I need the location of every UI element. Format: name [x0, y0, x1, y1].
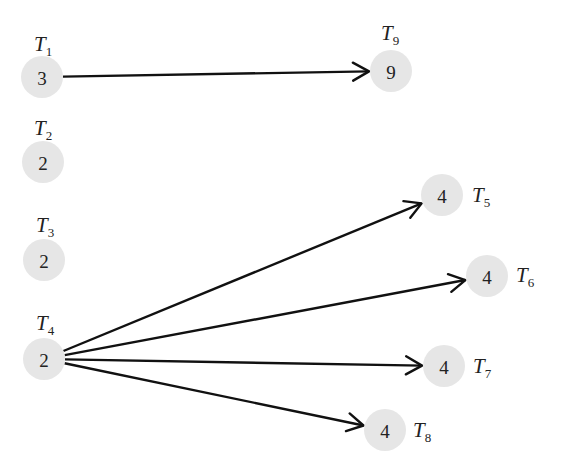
- node-label-subscript: 3: [48, 225, 55, 240]
- node-label-subscript: 8: [425, 430, 432, 445]
- edges-layer: [63, 63, 465, 431]
- node-label-subscript: 2: [46, 128, 53, 143]
- node-label-subscript: 4: [48, 323, 55, 338]
- node-weight: 3: [37, 68, 47, 89]
- node-t4: 2T4: [23, 311, 65, 380]
- edge-t4-t7: [65, 356, 422, 374]
- nodes-layer: 3T12T22T32T44T54T64T74T89T9: [21, 21, 535, 451]
- node-label-subscript: 9: [393, 33, 400, 48]
- edge-line: [65, 359, 422, 365]
- node-label: T2: [34, 116, 52, 143]
- edge-t4-t6: [65, 274, 466, 355]
- node-label: T6: [516, 263, 535, 290]
- node-weight: 2: [39, 251, 49, 272]
- node-label: T7: [473, 354, 492, 381]
- node-weight: 4: [380, 421, 390, 442]
- node-label: T8: [413, 418, 431, 445]
- node-label: T9: [381, 21, 399, 48]
- node-label-subscript: 6: [528, 275, 535, 290]
- edge-line: [63, 203, 421, 351]
- edge-line: [65, 280, 466, 355]
- node-t1: 3T1: [21, 32, 63, 98]
- node-weight: 9: [386, 62, 396, 83]
- node-t3: 2T3: [23, 213, 65, 281]
- edge-t1-t9: [63, 63, 369, 81]
- node-label: T4: [36, 311, 55, 338]
- node-t7: 4T7: [423, 345, 492, 387]
- node-weight: 2: [39, 350, 49, 371]
- node-t6: 4T6: [466, 255, 535, 297]
- node-weight: 4: [437, 186, 447, 207]
- node-label-subscript: 7: [485, 366, 492, 381]
- node-weight: 4: [482, 267, 492, 288]
- node-label-subscript: 5: [484, 195, 491, 210]
- node-t8: 4T8: [364, 409, 431, 451]
- edge-t4-t8: [65, 363, 364, 431]
- node-label: T5: [472, 183, 490, 210]
- task-graph-canvas: 3T12T22T32T44T54T64T74T89T9: [0, 0, 561, 460]
- node-t5: 4T5: [421, 174, 490, 216]
- node-t9: 9T9: [370, 21, 412, 92]
- node-label: T3: [36, 213, 54, 240]
- node-t2: 2T2: [22, 116, 64, 183]
- node-label-subscript: 1: [46, 44, 53, 59]
- edge-t4-t5: [63, 201, 421, 351]
- edge-line: [65, 363, 364, 425]
- edge-line: [63, 71, 369, 76]
- node-weight: 2: [38, 153, 48, 174]
- node-weight: 4: [439, 357, 449, 378]
- node-label: T1: [34, 32, 52, 59]
- task-graph: 3T12T22T32T44T54T64T74T89T9: [0, 0, 561, 460]
